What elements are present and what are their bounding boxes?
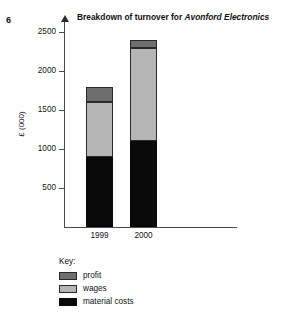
x-axis-label-1999: 1999 bbox=[78, 232, 121, 240]
legend-label-wages: wages bbox=[83, 285, 107, 293]
y-axis-tick bbox=[59, 149, 65, 150]
y-axis-tick-label-text: 1500 bbox=[38, 106, 56, 114]
bar-segment-2000-wages bbox=[130, 48, 157, 142]
y-axis-tick bbox=[59, 71, 65, 72]
y-axis-tick bbox=[59, 32, 65, 33]
legend-item-profit: profit bbox=[59, 270, 134, 282]
legend-item-wages: wages bbox=[59, 283, 134, 295]
legend-swatch-profit bbox=[59, 272, 77, 280]
bar-2000 bbox=[130, 0, 157, 227]
y-axis-tick-label-text: 2000 bbox=[38, 67, 56, 75]
y-axis-tick-label-text: 1000 bbox=[38, 145, 56, 153]
bar-segment-1999-wages bbox=[86, 102, 113, 157]
legend-swatch-material-costs bbox=[59, 298, 77, 306]
legend-label-material-costs: material costs bbox=[83, 298, 134, 306]
legend-item-material-costs: material costs bbox=[59, 296, 134, 308]
bar-segment-2000-profit bbox=[130, 40, 157, 48]
bar-segment-2000-material-costs bbox=[130, 141, 157, 227]
y-axis-caption: £ (000) bbox=[18, 94, 26, 154]
legend-rows: profitwagesmaterial costs bbox=[59, 270, 134, 308]
legend-heading: Key: bbox=[59, 258, 134, 266]
x-axis-label-2000: 2000 bbox=[122, 232, 165, 240]
bar-1999 bbox=[86, 0, 113, 227]
legend-label-profit: profit bbox=[83, 272, 101, 280]
y-axis-tick bbox=[59, 110, 65, 111]
legend: Key: profitwagesmaterial costs bbox=[59, 258, 134, 309]
chart-plot-area: £ (000) 5001000150020002500 19992000 bbox=[0, 0, 283, 260]
y-axis-tick bbox=[59, 188, 65, 189]
y-axis-tick-label-text: 2500 bbox=[38, 28, 56, 36]
x-axis-line bbox=[64, 227, 237, 228]
bar-segment-1999-material-costs bbox=[86, 157, 113, 227]
legend-swatch-wages bbox=[59, 285, 77, 293]
y-axis-tick-label-text: 500 bbox=[42, 184, 56, 192]
y-axis-arrow-icon bbox=[61, 15, 69, 22]
bar-segment-1999-profit bbox=[86, 87, 113, 103]
y-axis-line bbox=[64, 22, 65, 228]
